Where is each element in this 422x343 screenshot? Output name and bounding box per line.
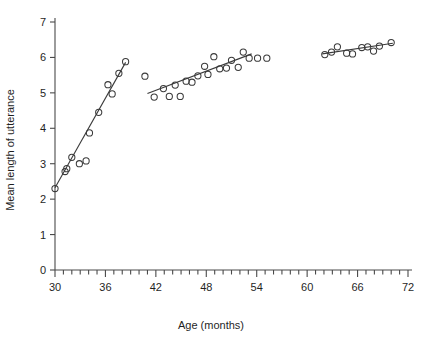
data-point-marker — [109, 91, 115, 97]
y-tick-label: 3 — [40, 158, 46, 170]
data-point-marker — [202, 63, 208, 69]
data-point-marker — [177, 93, 183, 99]
data-point-marker — [223, 65, 229, 71]
y-tick-label: 6 — [40, 51, 46, 63]
data-point-marker — [189, 79, 195, 85]
x-tick-label: 60 — [301, 281, 313, 293]
x-tick-label: 30 — [49, 281, 61, 293]
y-tick-label: 5 — [40, 87, 46, 99]
axis-ticks — [50, 22, 408, 277]
data-point-marker — [349, 51, 355, 57]
data-point-marker — [322, 51, 328, 57]
data-point-marker — [86, 130, 92, 136]
data-point-marker — [235, 64, 241, 70]
x-tick-label: 66 — [351, 281, 363, 293]
x-tick-label: 42 — [150, 281, 162, 293]
data-point-marker — [166, 93, 172, 99]
regression-lines — [55, 43, 393, 188]
data-point-marker — [254, 55, 260, 61]
data-point-marker — [123, 59, 129, 65]
y-tick-label: 4 — [40, 122, 46, 134]
data-point-marker — [211, 54, 217, 60]
data-point-marker — [370, 48, 376, 54]
data-point-marker — [105, 82, 111, 88]
data-point-marker — [76, 161, 82, 167]
data-point-marker — [83, 158, 89, 164]
axis-tick-labels: 012345673036424854606672 — [40, 16, 414, 293]
x-tick-label: 36 — [99, 281, 111, 293]
data-point-marker — [240, 49, 246, 55]
x-tick-label: 72 — [402, 281, 414, 293]
data-points — [52, 39, 394, 191]
data-point-marker — [388, 39, 394, 45]
y-tick-label: 1 — [40, 229, 46, 241]
regression-line — [55, 62, 126, 187]
y-tick-label: 0 — [40, 264, 46, 276]
scatter-plot: 012345673036424854606672 Age (months) Me… — [0, 0, 422, 343]
data-point-marker — [205, 71, 211, 77]
data-point-marker — [151, 94, 157, 100]
x-tick-label: 54 — [251, 281, 263, 293]
data-point-marker — [344, 50, 350, 56]
data-point-marker — [264, 55, 270, 61]
x-axis-title: Age (months) — [178, 319, 244, 331]
x-tick-label: 48 — [200, 281, 212, 293]
y-tick-label: 2 — [40, 193, 46, 205]
y-tick-label: 7 — [40, 16, 46, 28]
y-axis-title: Mean length of utterance — [4, 89, 16, 211]
chart-figure: 012345673036424854606672 Age (months) Me… — [0, 0, 422, 343]
data-point-marker — [246, 55, 252, 61]
axes-layer — [55, 18, 412, 270]
data-point-marker — [334, 44, 340, 50]
data-point-marker — [195, 73, 201, 79]
data-point-marker — [142, 73, 148, 79]
